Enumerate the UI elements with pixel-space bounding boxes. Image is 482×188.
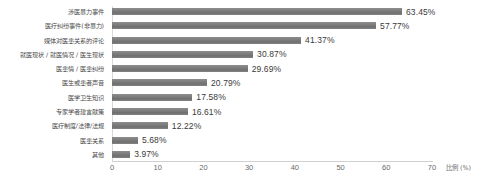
bar-value-label: 20.79% <box>211 78 240 88</box>
category-label: 医疗制度/法律/法规 <box>0 122 108 129</box>
category-label: 专家学者建言献策 <box>0 108 108 115</box>
bar-value-label: 63.45% <box>406 7 435 17</box>
bar <box>112 108 188 115</box>
bar-row: 57.77% <box>112 22 432 29</box>
category-label: 就医现状 / 就医情况 / 医生现状 <box>0 51 108 58</box>
bar-value-label: 30.87% <box>257 49 286 59</box>
bar <box>112 94 192 101</box>
bar-value-label: 12.22% <box>172 121 201 131</box>
x-tick-label: 0 <box>110 163 114 172</box>
bar-row: 63.45% <box>112 8 432 15</box>
x-tick-label: 20 <box>199 163 207 172</box>
bar-row: 5.68% <box>112 137 432 144</box>
category-label: 涉医暴力事件 <box>0 8 108 15</box>
category-label: 医患情 / 医患纠纷 <box>0 65 108 72</box>
bar <box>112 22 376 29</box>
bar <box>112 151 130 158</box>
bar-value-label: 17.58% <box>196 92 225 102</box>
bar-value-label: 16.61% <box>192 107 221 117</box>
bar-value-label: 57.77% <box>380 21 409 31</box>
bar <box>112 51 253 58</box>
bar-row: 30.87% <box>112 51 432 58</box>
bar-rows: 63.45%57.77%41.37%30.87%29.69%20.79%17.5… <box>112 8 432 158</box>
x-tick-label: 10 <box>154 163 162 172</box>
x-axis-line <box>112 161 433 162</box>
category-label: 医患关系 <box>0 137 108 144</box>
category-label: 医生或患者声音 <box>0 79 108 86</box>
bar <box>112 8 402 15</box>
category-label: 医学卫生知识 <box>0 94 108 101</box>
x-tick-label: 60 <box>382 163 390 172</box>
bar <box>112 137 138 144</box>
x-axis-unit-label: 比例 (%) <box>446 163 471 172</box>
category-label: 医疗纠纷事件(非暴力) <box>0 22 108 29</box>
x-tick-label: 50 <box>336 163 344 172</box>
bar-value-label: 29.69% <box>252 64 281 74</box>
bar-row: 20.79% <box>112 79 432 86</box>
bar-row: 17.58% <box>112 94 432 101</box>
bar <box>112 37 301 44</box>
bar <box>112 79 207 86</box>
bar <box>112 65 248 72</box>
x-tick-label: 30 <box>245 163 253 172</box>
bar-row: 16.61% <box>112 108 432 115</box>
bar-value-label: 3.97% <box>134 149 159 159</box>
plot-area: 63.45%57.77%41.37%30.87%29.69%20.79%17.5… <box>112 8 432 158</box>
bar-row: 3.97% <box>112 151 432 158</box>
bar-row: 41.37% <box>112 37 432 44</box>
x-axis-ticks: 010203040506070 <box>112 163 432 177</box>
category-label: 媒体对医患关系的评论 <box>0 37 108 44</box>
bar-row: 29.69% <box>112 65 432 72</box>
bar-value-label: 41.37% <box>305 35 334 45</box>
x-tick-label: 40 <box>291 163 299 172</box>
horizontal-bar-chart: 涉医暴力事件医疗纠纷事件(非暴力)媒体对医患关系的评论就医现状 / 就医情况 /… <box>0 0 482 188</box>
bar <box>112 122 168 129</box>
bar-row: 12.22% <box>112 122 432 129</box>
category-label: 其他 <box>0 151 108 158</box>
category-axis-labels: 涉医暴力事件医疗纠纷事件(非暴力)媒体对医患关系的评论就医现状 / 就医情况 /… <box>0 8 108 158</box>
x-tick-label: 70 <box>428 163 436 172</box>
bar-value-label: 5.68% <box>142 135 167 145</box>
